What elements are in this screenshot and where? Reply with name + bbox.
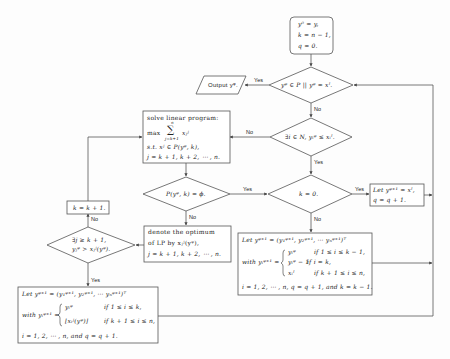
edge-label-main-no: No (314, 106, 321, 112)
update-middle-case1-cond: if 1 ≤ i ≤ k − 1, (314, 249, 365, 255)
flowchart-canvas: y⁰ = y, k = n − 1, q = 0. yᵠ ∈ P || yᵠ =… (0, 0, 450, 359)
edge-label-k0-yes: Yes (355, 186, 364, 192)
update-bottom-case2-cond: if k + 1 ≤ i ≤ n, (104, 318, 155, 324)
lp-sum-var: xⱼʲ (182, 130, 189, 136)
update-bottom-with: with yᵢᵠ⁺¹ = (22, 312, 59, 318)
update-bottom-last: i = 1, 2, ⋯ , n, and q = q + 1. (22, 333, 118, 339)
update-bottom-case1-cond: if 1 ≤ i ≤ k, (104, 304, 142, 310)
start-line-1: y⁰ = y, (298, 21, 319, 27)
start-line-2: k = n − 1, (298, 32, 331, 38)
edge-label-empty-no: No (189, 214, 196, 220)
edge-label-k0-no: No (314, 216, 321, 222)
edge-label-j-no: No (91, 216, 98, 222)
update-middle-case1-val: yᵢᵠ (288, 249, 296, 255)
update-middle-case2-cond: if i = k, (307, 259, 331, 265)
lp-line-1: solve linear program: (147, 115, 219, 121)
start-line-3: q = 0. (298, 43, 318, 49)
update-bottom-case1-val: yᵢᵠ (65, 304, 73, 310)
lp-line-3: s.t. xʲ ∈ P(yᵠ, k), (147, 144, 199, 150)
edge-label-empty-yes: Yes (243, 186, 252, 192)
decision-j-line-1: ∃j ≥ k + 1, (72, 237, 106, 243)
denote-line-2: of LP by xⱼʲ(yᵠ), (148, 240, 199, 246)
edge-label-exists-no: No (246, 129, 253, 135)
decision-empty-text: P(yᵠ, k) = ϕ. (166, 191, 206, 197)
decision-j-line-2: yⱼᵠ > xⱼʲ(yᵠ). (72, 246, 110, 252)
decision-main-text: yᵠ ∈ P || yᵠ = xᴵ. (281, 82, 332, 88)
lp-sum-bottom: j=k+1 (165, 137, 179, 141)
lp-line-4: j = k + 1, k + 2, ⋯ , n. (147, 154, 220, 160)
decision-exists-text: ∃i ∈ N, yᵢᵠ ≤ xᵢᴵ. (285, 134, 335, 140)
lp-max: max (147, 130, 161, 136)
k-increment-text: k = k + 1. (73, 205, 106, 211)
update-middle-with: with yᵢᵠ⁺¹ = (242, 259, 279, 265)
update-middle-last: i = 1, 2, ⋯ , n, q = q + 1, and k = k − … (242, 284, 373, 290)
decision-k0-text: k = 0. (299, 191, 318, 197)
edge-label-exists-yes: Yes (314, 159, 323, 165)
edge-label-j-yes: Yes (91, 277, 100, 283)
update-bottom-case2-val: ⌊xᵢʲ(yᵠ)⌋ (65, 318, 88, 324)
output-node-text: Output yᵠ. (208, 82, 238, 88)
update-bottom-line-1: Let yᵠ⁺¹ = (y₁ᵠ⁺¹, y₂ᵠ⁺¹, ⋯ yₙᵠ⁺¹)ᵀ (22, 291, 126, 297)
let-right-line-2: q = q + 1. (373, 197, 406, 203)
denote-line-1: denote the optimum (148, 229, 215, 235)
lp-sum-top: n (171, 121, 174, 125)
let-right-line-1: Let yᵠ⁺¹ = xᴵ, (373, 187, 415, 193)
edge-label-main-yes: Yes (254, 77, 263, 83)
update-middle-case3-cond: if k + 1 ≤ i ≤ n, (314, 270, 365, 276)
lp-sum-symbol: ∑ (167, 125, 174, 135)
update-middle-case3-val: xᵢᴵ (288, 270, 295, 276)
update-middle-line-1: Let yᵠ⁺¹ = (y₁ᵠ⁺¹, y₂ᵠ⁺¹, ⋯ yₙᵠ⁺¹)ᵀ (242, 237, 346, 243)
denote-line-3: j = k + 1, k + 2, ⋯ , n. (148, 251, 221, 257)
